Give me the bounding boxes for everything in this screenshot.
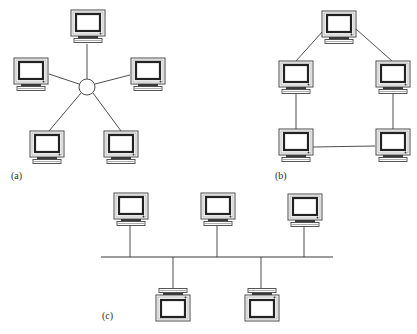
star-topology	[14, 10, 165, 164]
star-link-bottom-left	[49, 93, 81, 131]
star-link-bottom-right	[93, 93, 121, 131]
computer-icon	[201, 193, 235, 226]
computer-icon	[14, 58, 48, 91]
computer-icon	[279, 129, 313, 162]
computer-icon	[131, 58, 165, 91]
star-link-left	[49, 74, 79, 84]
computer-icon	[279, 61, 313, 94]
star-hub-node	[79, 79, 95, 95]
computer-icon	[376, 129, 410, 162]
bus-topology	[101, 193, 333, 321]
computer-icon	[288, 194, 322, 227]
panel-label-b: (b)	[275, 170, 287, 181]
computer-icon-flipped	[156, 289, 190, 322]
computer-icon	[30, 131, 64, 164]
ring-link	[356, 29, 392, 61]
computer-icon	[104, 131, 138, 164]
ring-link	[313, 146, 375, 147]
ring-topology	[279, 11, 410, 162]
panel-label-c: (c)	[102, 310, 113, 321]
star-link-right	[95, 75, 130, 84]
ring-link	[296, 31, 323, 61]
network-topologies-diagram	[0, 0, 417, 334]
computer-icon	[376, 61, 410, 94]
computer-icon	[322, 11, 356, 44]
computer-icon-flipped	[245, 289, 279, 322]
panel-label-a: (a)	[11, 170, 22, 181]
computer-icon	[114, 193, 148, 226]
computer-icon	[71, 10, 105, 43]
